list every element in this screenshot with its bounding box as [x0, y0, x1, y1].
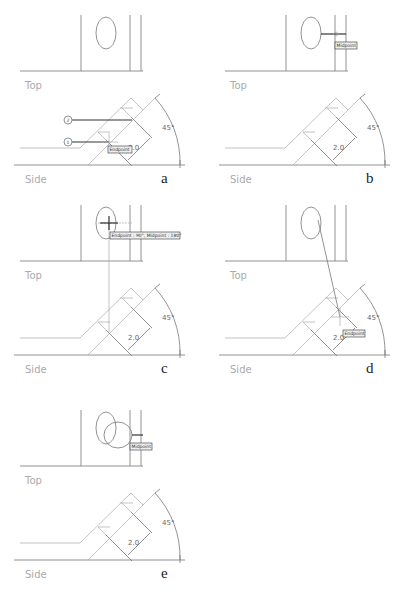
side-view-label: Side: [230, 174, 252, 185]
figure-caption-clipped: [40, 606, 370, 611]
angle-dimension: 45°: [367, 314, 379, 322]
panel-d: Top Side 2.0 45° d Endpoint: [219, 205, 390, 376]
top-view-label: Top: [24, 475, 42, 486]
panel-label: a: [161, 170, 168, 186]
svg-text:Midpoint: Midpoint: [337, 43, 357, 48]
svg-text:2: 2: [67, 118, 70, 123]
angle-dimension: 45°: [162, 124, 174, 132]
panel-c: Top Side 2.0 45° c Endpoint : 90°, Midpo…: [14, 205, 185, 376]
panel-e: Top Side 2.0 45° e Midpoint: [14, 410, 185, 581]
angle-dimension: 45°: [162, 314, 174, 322]
length-dimension: 2.0: [333, 144, 344, 152]
top-view-label: Top: [229, 80, 247, 91]
svg-text:Endpoint: Endpoint: [345, 331, 365, 336]
top-view-label: Top: [229, 270, 247, 281]
panel-label: b: [366, 170, 374, 186]
angle-dimension: 45°: [367, 124, 379, 132]
panel-label: d: [366, 360, 374, 376]
top-view-label: Top: [24, 80, 42, 91]
svg-text:Endpoint: Endpoint: [110, 147, 130, 152]
svg-text:Midpoint: Midpoint: [132, 444, 152, 449]
panel-b: Top Side 2.0 45° b Midpoint: [219, 15, 390, 186]
panel-a: Top Side 2.0 45° a 2 1 Endpoint: [14, 15, 185, 186]
svg-text:Endpoint : 90°, Midpoint : 180: Endpoint : 90°, Midpoint : 180°: [112, 233, 182, 238]
figure-canvas: Top Side 2.0 45° a 2 1 Endpoint Top Side…: [0, 0, 410, 611]
panel-label: c: [161, 360, 168, 376]
length-dimension: 2.0: [128, 539, 139, 547]
side-view-label: Side: [25, 174, 47, 185]
panel-label: e: [161, 565, 168, 581]
side-view-label: Side: [25, 364, 47, 375]
side-view-label: Side: [230, 364, 252, 375]
angle-dimension: 45°: [162, 519, 174, 527]
crosshair-icon: [331, 308, 349, 326]
length-dimension: 2.0: [128, 334, 139, 342]
top-view-label: Top: [24, 270, 42, 281]
svg-text:1: 1: [67, 140, 70, 145]
side-view-label: Side: [25, 569, 47, 580]
length-dimension: 2.0: [333, 334, 344, 342]
